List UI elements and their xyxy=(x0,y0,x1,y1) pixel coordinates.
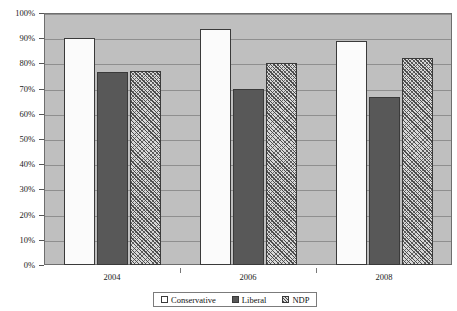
y-tick-label-100: 100% xyxy=(15,9,35,18)
bar-conservative-2006 xyxy=(200,29,231,265)
y-tick-label-50: 50% xyxy=(19,135,35,144)
bar-ndp-2006 xyxy=(266,63,297,265)
y-tick-label-60: 60% xyxy=(19,109,35,118)
legend-swatch-conservative-icon xyxy=(161,296,168,303)
y-tick-label-0: 0% xyxy=(24,261,35,270)
legend-item-conservative[interactable]: Conservative xyxy=(161,295,216,305)
y-tick-label-10: 10% xyxy=(19,235,35,244)
x-tick-separator-2 xyxy=(316,268,317,273)
x-tick-separator-1 xyxy=(180,268,181,273)
y-axis: 0%10%20%30%40%50%60%70%80%90%100% xyxy=(0,13,40,265)
bar-liberal-2008 xyxy=(369,97,400,265)
bars-layer xyxy=(44,13,452,265)
y-tick-mark-0 xyxy=(39,265,44,266)
bar-ndp-2008 xyxy=(402,58,433,265)
bar-ndp-2004 xyxy=(130,71,161,265)
legend-label-liberal: Liberal xyxy=(242,295,267,305)
bar-liberal-2006 xyxy=(233,89,264,265)
bar-conservative-2004 xyxy=(64,38,95,265)
chart-title-sliver xyxy=(36,0,436,3)
bar-conservative-2008 xyxy=(336,41,367,265)
legend-item-ndp[interactable]: NDP xyxy=(282,295,309,305)
y-tick-label-40: 40% xyxy=(19,160,35,169)
bar-liberal-2004 xyxy=(97,72,128,265)
x-tick-label-2006: 2006 xyxy=(240,272,257,282)
y-tick-label-20: 20% xyxy=(19,210,35,219)
legend-label-ndp: NDP xyxy=(292,295,309,305)
x-tick-label-2008: 2008 xyxy=(376,272,393,282)
x-tick-label-2004: 2004 xyxy=(104,272,121,282)
y-tick-label-30: 30% xyxy=(19,185,35,194)
legend-swatch-liberal-icon xyxy=(232,296,239,303)
legend-item-liberal[interactable]: Liberal xyxy=(232,295,267,305)
y-tick-label-70: 70% xyxy=(19,84,35,93)
legend-label-conservative: Conservative xyxy=(171,295,216,305)
legend-swatch-ndp-icon xyxy=(282,296,289,303)
y-tick-label-90: 90% xyxy=(19,34,35,43)
bar-chart: 0%10%20%30%40%50%60%70%80%90%100% 200420… xyxy=(0,0,457,311)
y-tick-label-80: 80% xyxy=(19,59,35,68)
x-axis: 200420062008 xyxy=(44,268,452,284)
chart-legend: ConservativeLiberalNDP xyxy=(153,292,317,307)
